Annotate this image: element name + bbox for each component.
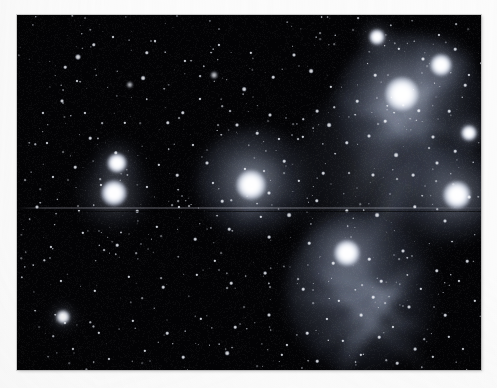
- star-alcyone: [385, 77, 419, 111]
- scanline-artifact: [17, 207, 481, 209]
- star-pleione: [107, 153, 127, 173]
- scanline-dark-artifact: [17, 211, 481, 212]
- star-halo-alcyone: [340, 32, 464, 156]
- star-halo-star-18-tauri: [47, 301, 79, 333]
- star-halo-merope: [303, 209, 391, 297]
- star-halo-pleione: [91, 137, 143, 189]
- star-halo-taygeta: [409, 33, 473, 97]
- astrophotograph-plate: [17, 15, 481, 370]
- bright-stars-layer: [17, 15, 481, 370]
- star-merope: [334, 240, 360, 266]
- star-halo-maia: [409, 147, 481, 243]
- star-maia: [443, 181, 471, 209]
- star-halo-electra: [199, 133, 303, 237]
- star-asterope: [369, 29, 385, 45]
- star-halo-celaeno: [447, 111, 481, 155]
- star-celaeno: [461, 125, 477, 141]
- star-star-18-tauri: [56, 310, 70, 324]
- screenshot-root: Black-and-white astronomical photograph …: [0, 0, 497, 388]
- star-atlas: [101, 180, 127, 206]
- star-halo-atlas: [74, 153, 154, 233]
- star-electra: [236, 170, 266, 200]
- star-halo-asterope: [357, 17, 397, 57]
- star-taygeta: [430, 54, 452, 76]
